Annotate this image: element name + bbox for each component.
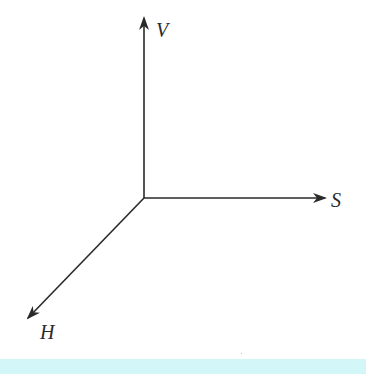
diagram-canvas: V S H — [0, 0, 366, 374]
v-axis-label: V — [156, 20, 168, 40]
s-axis-label: S — [331, 190, 341, 210]
bottom-highlight-band — [0, 359, 366, 374]
h-axis-label: H — [40, 322, 54, 342]
coordinate-axes — [0, 0, 366, 374]
scan-speck — [241, 353, 242, 354]
h-axis-line — [28, 198, 144, 318]
